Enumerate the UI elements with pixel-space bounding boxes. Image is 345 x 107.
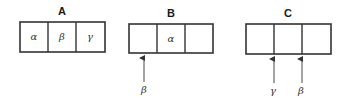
panel-c-title: C	[284, 7, 292, 19]
panel-a-title: A	[58, 5, 66, 17]
panel-c-arrow-1-label: γ	[270, 85, 276, 96]
panel-b-arrow-label: β	[140, 84, 147, 95]
panel-a-cell-2: β	[58, 31, 65, 42]
panel-c: C γ β	[246, 7, 331, 96]
panel-b: B α β	[129, 7, 213, 95]
panel-c-arrow-2-label: β	[297, 85, 304, 96]
panel-a-cell-1: α	[31, 31, 38, 42]
panel-a: A α β γ	[20, 5, 105, 52]
diagram-canvas: A α β γ B α β C γ β	[0, 0, 345, 107]
panel-c-box	[246, 24, 331, 54]
panel-b-cell-2: α	[168, 33, 175, 44]
panel-a-cell-3: γ	[87, 31, 93, 42]
panel-b-title: B	[167, 7, 175, 19]
